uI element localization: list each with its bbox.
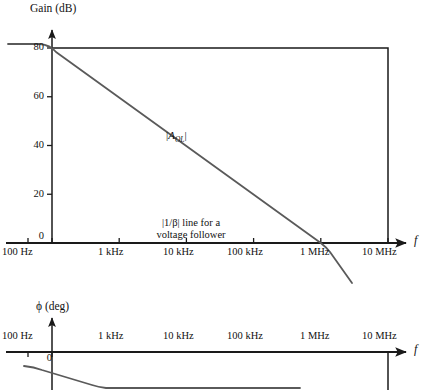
gain-x-axis-symbol: f <box>414 234 417 248</box>
gain-plot-border <box>52 48 388 243</box>
gain-x-tick-100khz: 100 kHz <box>227 246 263 258</box>
gain-x-tick-10mhz: 10 MHz <box>362 246 397 258</box>
phase-plot-group <box>6 318 406 390</box>
gain-y-tick-60: 60 <box>22 90 44 102</box>
open-loop-gain-label-symbol: A <box>168 129 175 141</box>
open-loop-gain-label-bar-right: | <box>185 129 187 141</box>
phase-x-tick-10khz: 10 kHz <box>163 330 194 342</box>
gain-y-axis-title: Gain (dB) <box>30 2 76 15</box>
phase-x-tick-100hz: 100 Hz <box>2 330 33 342</box>
phase-x-tick-1mhz: 1 MHz <box>300 330 329 342</box>
phase-x-tick-1khz: 1 kHz <box>98 330 123 342</box>
phase-x-tick-100khz: 100 kHz <box>227 330 263 342</box>
phase-x-tick-10mhz: 10 MHz <box>362 330 397 342</box>
gain-y-tick-20: 20 <box>22 188 44 200</box>
bode-plot-figure: Gain (dB) 80 60 40 20 0 100 Hz 1 kHz 10 … <box>0 0 428 390</box>
beta-line-annotation-line2: voltage follower <box>137 229 245 241</box>
gain-plot-group <box>6 30 406 283</box>
phase-y-axis-title: ϕ (deg) <box>36 300 69 313</box>
beta-line-annotation-line1: |1/β| line for a <box>137 217 245 229</box>
gain-x-tick-100hz: 100 Hz <box>2 246 33 258</box>
phase-y-tick-0: 0 <box>34 352 52 364</box>
gain-y-tick-80: 80 <box>22 41 44 53</box>
phase-curve <box>24 366 300 388</box>
phase-x-axis-symbol: f <box>414 343 417 357</box>
open-loop-gain-label-subscript: OL <box>175 135 185 144</box>
gain-x-tick-10khz: 10 kHz <box>163 246 194 258</box>
gain-y-tick-0: 0 <box>22 230 44 242</box>
gain-x-tick-1mhz: 1 MHz <box>300 246 329 258</box>
beta-line-annotation: |1/β| line for a voltage follower <box>137 217 245 241</box>
gain-y-tick-40: 40 <box>22 139 44 151</box>
open-loop-gain-label: |AOL| <box>166 129 187 145</box>
gain-x-tick-1khz: 1 kHz <box>98 246 123 258</box>
